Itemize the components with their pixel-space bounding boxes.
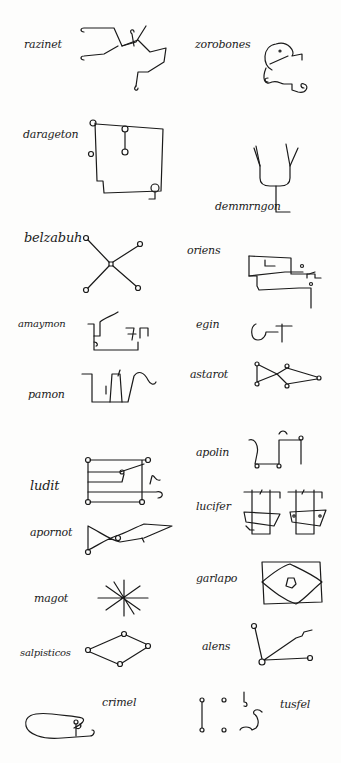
sigil-pamon [80,372,160,412]
label-crimel: crimel [102,696,136,709]
sigil-darageton [85,115,165,200]
sigil-amaymon [80,312,170,362]
label-pamon: pamon [28,388,65,401]
label-ludit: ludit [30,478,59,493]
sigil-astarot [253,360,333,395]
label-demmrngon: demmrngon [215,200,281,213]
label-darageton: darageton [23,128,78,141]
label-lucifer: lucifer [196,500,231,513]
sigil-razinet [78,24,178,94]
sigil-magot [96,580,156,630]
sigil-alens [248,620,328,670]
label-alens: alens [202,640,230,653]
label-apolin: apolin [196,446,229,459]
sigil-oriens [245,250,325,310]
sigil-crimel [22,708,102,748]
label-apornot: apornot [30,526,72,539]
label-egin: egin [196,318,219,331]
label-amaymon: amaymon [18,318,66,329]
label-magot: magot [34,592,68,605]
sigil-ludit [84,456,174,506]
label-salpisticos: salpisticos [20,647,71,658]
sigil-salpisticos [84,632,154,672]
sigil-egin [248,320,308,350]
sigil-apolin [245,432,315,482]
sigil-belzabuh [80,232,150,302]
sigil-zorobones [258,38,328,103]
sigil-lucifer [240,490,335,540]
sigil-garlapo [260,560,335,610]
label-belzabuh: belzabuh [24,230,82,245]
label-razinet: razinet [24,38,62,51]
label-astarot: astarot [190,368,228,381]
label-garlapo: garlapo [196,572,237,585]
label-zorobones: zorobones [195,38,250,51]
sigil-apornot [84,524,179,564]
manuscript-page: razinet zorobones darageton demmrngon be… [0,0,341,763]
label-oriens: oriens [187,244,220,257]
sigil-tusfel [196,686,286,736]
